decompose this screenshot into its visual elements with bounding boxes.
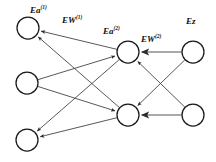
- network-node: [182, 41, 204, 63]
- label-base: EW: [141, 34, 155, 44]
- label-base: Ea: [30, 5, 41, 15]
- edge: [38, 37, 119, 108]
- label-ea1: Ea(1): [30, 6, 47, 15]
- backpropagation-diagram: Ea(1)EW(1)Ea(2)EW(2)Ez: [0, 0, 216, 162]
- label-ew2: EW(2): [141, 35, 161, 44]
- label-ew1: EW(1): [62, 16, 82, 25]
- network-node: [16, 72, 38, 94]
- network-node: [17, 17, 39, 39]
- network-graph-canvas: [0, 0, 216, 162]
- label-ez: Ez: [186, 17, 196, 26]
- label-superscript: (2): [114, 25, 120, 31]
- edge: [38, 56, 115, 80]
- edge: [138, 60, 185, 106]
- label-superscript: (1): [41, 4, 47, 10]
- label-base: Ea: [103, 26, 114, 36]
- edge: [138, 61, 185, 107]
- network-node: [16, 129, 38, 151]
- label-base: EW: [62, 15, 76, 25]
- edges-group: [37, 31, 185, 137]
- network-node: [117, 41, 139, 63]
- label-superscript: (1): [76, 14, 82, 20]
- edge: [38, 86, 115, 110]
- network-node: [182, 104, 204, 126]
- edge: [40, 118, 117, 137]
- label-ea2: Ea(2): [103, 27, 120, 36]
- network-node: [117, 104, 139, 126]
- label-base: Ez: [186, 16, 196, 26]
- nodes-group: [16, 17, 204, 151]
- label-superscript: (2): [155, 33, 161, 39]
